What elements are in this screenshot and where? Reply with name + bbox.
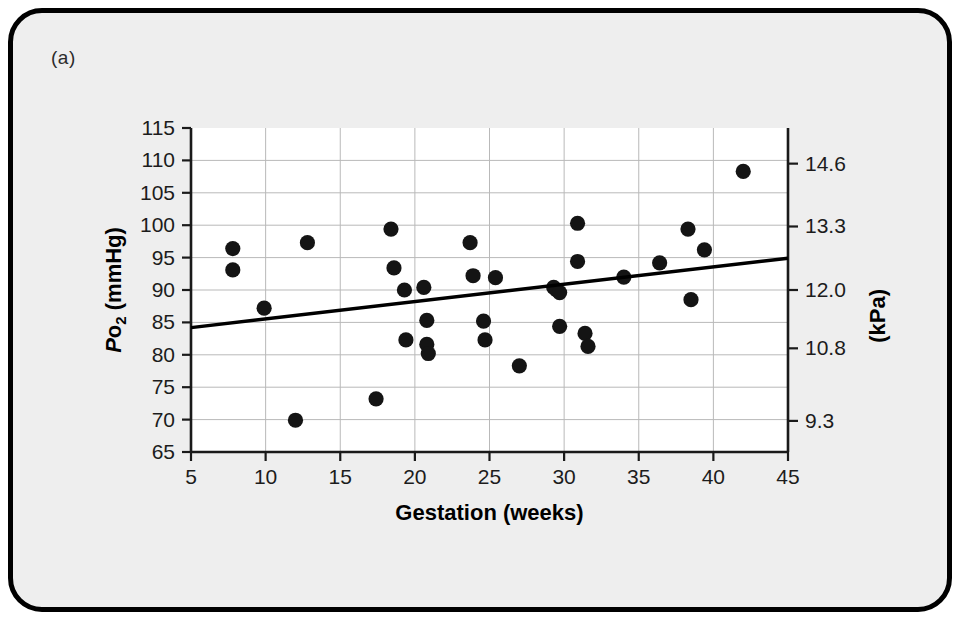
- x-tick-label: 10: [254, 465, 277, 488]
- data-point: [288, 413, 303, 428]
- y-tick-label: 75: [152, 375, 175, 398]
- x-tick-label: 30: [552, 465, 575, 488]
- x-tick-label: 5: [185, 465, 197, 488]
- data-point: [736, 164, 751, 179]
- data-point: [488, 270, 503, 285]
- x-tick-label: 15: [329, 465, 352, 488]
- data-point: [386, 260, 401, 275]
- y2-tick-label: 10.8: [805, 336, 846, 359]
- y-tick-label: 70: [152, 408, 175, 431]
- y2-tick-label: 13.3: [805, 214, 846, 237]
- y2-axis-ticks: 9.310.812.013.314.6: [788, 152, 846, 432]
- data-point: [512, 358, 527, 373]
- x-tick-label: 45: [776, 465, 799, 488]
- y-tick-label: 115: [142, 116, 175, 139]
- y-axis-ticks: 65707580859095100105110115: [140, 116, 191, 463]
- x-tick-label: 20: [403, 465, 426, 488]
- data-point: [225, 241, 240, 256]
- y2-tick-label: 14.6: [805, 152, 846, 175]
- data-point: [652, 255, 667, 270]
- y-axis-title: Po2 (mmHg): [101, 227, 129, 353]
- y-tick-label: 85: [152, 310, 175, 333]
- data-point: [462, 235, 477, 250]
- y-tick-label: 95: [152, 246, 175, 269]
- data-point: [300, 235, 315, 250]
- chart-svg: 65707580859095100105110115 9.310.812.013…: [13, 13, 957, 617]
- y-tick-label: 80: [152, 343, 175, 366]
- data-point: [225, 262, 240, 277]
- data-point: [683, 292, 698, 307]
- x-tick-label: 40: [702, 465, 725, 488]
- data-point: [577, 326, 592, 341]
- data-point: [397, 282, 412, 297]
- data-point: [465, 268, 480, 283]
- data-point: [552, 285, 567, 300]
- x-axis-title: Gestation (weeks): [395, 500, 583, 525]
- y-tick-label: 100: [140, 213, 175, 236]
- data-point: [570, 254, 585, 269]
- x-tick-label: 35: [627, 465, 650, 488]
- data-point: [398, 332, 413, 347]
- data-point: [257, 301, 272, 316]
- data-point: [419, 313, 434, 328]
- y2-axis-title: (kPa): [865, 289, 890, 343]
- data-point: [570, 216, 585, 231]
- y-tick-label: 90: [152, 278, 175, 301]
- y2-tick-label: 12.0: [805, 278, 846, 301]
- data-point: [580, 339, 595, 354]
- data-point: [477, 332, 492, 347]
- data-point: [476, 314, 491, 329]
- data-point: [552, 319, 567, 334]
- data-point: [697, 242, 712, 257]
- y-tick-label: 110: [142, 148, 175, 171]
- data-point: [421, 346, 436, 361]
- scatter-chart: 65707580859095100105110115 9.310.812.013…: [13, 13, 957, 617]
- y-tick-label: 105: [140, 181, 175, 204]
- data-point: [680, 221, 695, 236]
- y2-tick-label: 9.3: [805, 409, 834, 432]
- data-point: [368, 391, 383, 406]
- figure-frame: (a) 65707580859095100105110115 9.310.812…: [8, 8, 952, 612]
- y-tick-label: 65: [152, 440, 175, 463]
- x-axis-ticks: 51015202530354045: [185, 452, 800, 488]
- data-point: [416, 280, 431, 295]
- x-tick-label: 25: [478, 465, 501, 488]
- data-point: [383, 221, 398, 236]
